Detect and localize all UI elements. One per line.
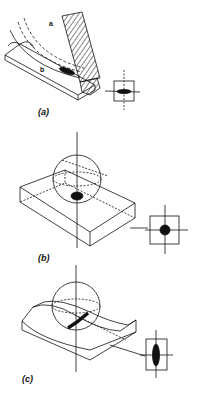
inset-b-contact-patch (145, 205, 188, 254)
annotation-a: a (49, 20, 53, 27)
panel-b-drawing (20, 132, 148, 248)
annotation-b: b (40, 66, 44, 73)
panel-c-label: (c) (22, 374, 33, 384)
contact-geometry-figure: a b (0, 0, 202, 397)
panel-a-label: (a) (38, 107, 49, 117)
inset-a-contact-patch (105, 70, 140, 110)
panel-c-drawing (22, 265, 145, 372)
panel-b-label: (b) (38, 253, 50, 263)
inset-c-contact-patch (140, 330, 173, 378)
